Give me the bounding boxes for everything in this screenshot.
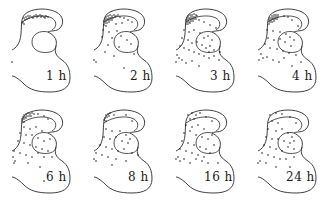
anatomical-outline [0, 101, 82, 201]
anatomical-outline [246, 0, 328, 100]
figure: 1 h 2 h 3 h 4 h 6 h [0, 0, 333, 202]
anatomical-outline [82, 0, 164, 100]
anatomical-outline [164, 0, 246, 100]
time-label: 6 h [46, 170, 67, 184]
panel-2h: 2 h [82, 0, 164, 100]
time-label: 3 h [210, 69, 231, 83]
anatomical-outline [82, 101, 164, 201]
time-label: 8 h [128, 170, 149, 184]
time-label: 24 h [286, 170, 315, 184]
time-label: 2 h [130, 69, 151, 83]
anatomical-outline [246, 101, 328, 201]
time-label: 16 h [204, 170, 233, 184]
panel-6h: 6 h [0, 101, 82, 201]
panel-3h: 3 h [164, 0, 246, 100]
panel-4h: 4 h [246, 0, 328, 100]
panel-8h: 8 h [82, 101, 164, 201]
panel-1h: 1 h [0, 0, 82, 100]
anatomical-outline [164, 101, 246, 201]
anatomical-outline [0, 0, 82, 100]
panel-16h: 16 h [164, 101, 246, 201]
panel-24h: 24 h [246, 101, 328, 201]
time-label: 1 h [46, 69, 67, 83]
time-label: 4 h [292, 69, 313, 83]
